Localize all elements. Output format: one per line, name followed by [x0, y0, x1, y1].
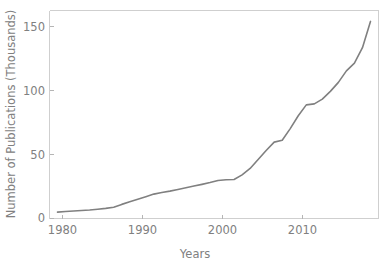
x-tick-label-1990: 1990 — [128, 223, 157, 237]
x-tick-label-1980: 1980 — [48, 223, 77, 237]
x-tick-label-2000: 2000 — [208, 223, 237, 237]
publications-line-chart: 0 50 100 150 1980 1990 2000 2010 Years N… — [0, 0, 388, 266]
x-axis-ticks — [63, 215, 303, 219]
x-tick-label-2010: 2010 — [288, 223, 317, 237]
data-line-publications — [58, 21, 371, 212]
y-axis-title: Number of Publications (Thousands) — [4, 10, 18, 219]
y-tick-label-150: 150 — [23, 20, 45, 34]
x-axis-tick-labels: 1980 1990 2000 2010 — [48, 223, 317, 237]
chart-figure: 0 50 100 150 1980 1990 2000 2010 Years N… — [0, 0, 388, 266]
y-tick-label-50: 50 — [30, 148, 45, 162]
y-tick-label-0: 0 — [38, 211, 45, 225]
plot-frame — [50, 11, 379, 219]
y-axis-tick-labels: 0 50 100 150 — [23, 20, 45, 226]
x-axis-title: Years — [179, 247, 210, 261]
y-tick-label-100: 100 — [23, 84, 45, 98]
y-axis-ticks — [50, 27, 54, 219]
